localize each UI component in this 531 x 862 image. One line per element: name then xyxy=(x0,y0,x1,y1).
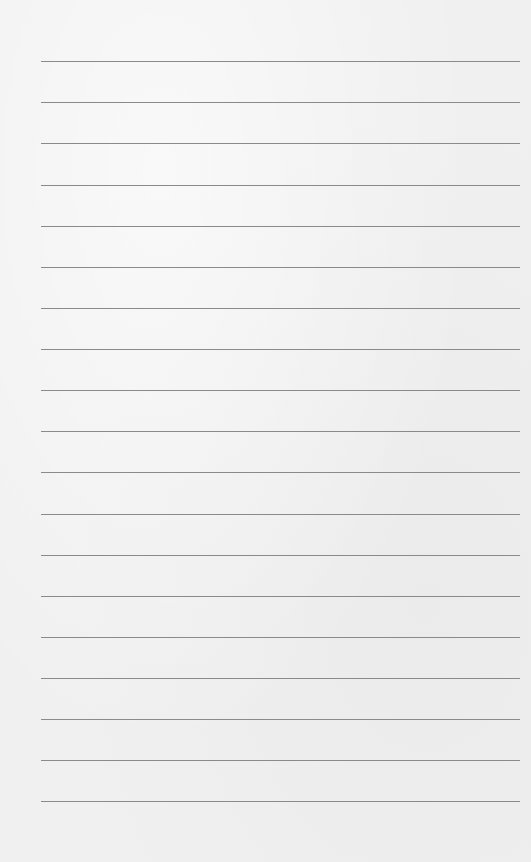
ruled-line xyxy=(41,308,520,309)
ruled-line xyxy=(41,719,520,720)
ruled-line xyxy=(41,760,520,761)
ruled-line xyxy=(41,390,520,391)
ruled-line xyxy=(41,472,520,473)
ruled-line xyxy=(41,349,520,350)
ruled-line xyxy=(41,185,520,186)
ruled-line xyxy=(41,596,520,597)
ruled-line xyxy=(41,61,520,62)
ruled-line xyxy=(41,637,520,638)
ruled-line xyxy=(41,102,520,103)
ruled-line xyxy=(41,514,520,515)
ruled-line xyxy=(41,267,520,268)
ruled-line xyxy=(41,801,520,802)
ruled-line xyxy=(41,431,520,432)
lined-paper xyxy=(0,0,531,862)
ruled-line xyxy=(41,143,520,144)
ruled-line xyxy=(41,678,520,679)
ruled-line xyxy=(41,555,520,556)
ruled-line xyxy=(41,226,520,227)
